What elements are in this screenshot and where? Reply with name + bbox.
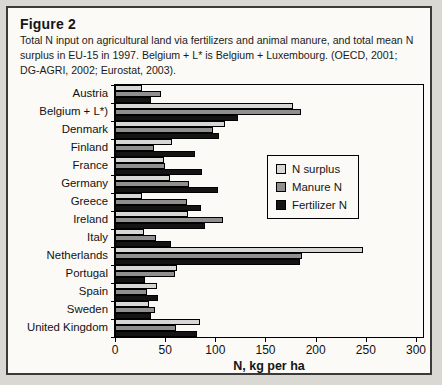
x-tick-mark (366, 338, 367, 342)
y-tick (111, 301, 115, 302)
y-axis-label: Finland (14, 138, 114, 156)
figure-title: Figure 2 (20, 16, 418, 32)
bar-group (115, 229, 423, 247)
y-tick (111, 193, 115, 194)
x-tick-label: 50 (158, 343, 171, 357)
x-tick-label: 100 (205, 343, 225, 357)
y-axis-label: France (14, 156, 114, 174)
y-axis-label: Belgium + L*) (14, 102, 114, 120)
x-tick-label: 200 (306, 343, 326, 357)
y-tick (111, 157, 115, 158)
x-tick-label: 250 (356, 343, 376, 357)
bar-group (115, 157, 423, 175)
x-tick-mark (215, 338, 216, 342)
y-axis-labels: AustriaBelgium + L*)DenmarkFinlandFrance… (14, 84, 114, 336)
bar-group (115, 265, 423, 283)
bar-group (115, 193, 423, 211)
plot-wrap: N surplusManure NFertilizer N 0501001502… (114, 84, 424, 373)
bar-group (115, 121, 423, 139)
y-axis-label: Netherlands (14, 246, 114, 264)
bar-chart: AustriaBelgium + L*)DenmarkFinlandFrance… (8, 84, 430, 373)
y-tick (111, 319, 115, 320)
y-axis-label: Italy (14, 228, 114, 246)
y-tick (111, 247, 115, 248)
x-axis-title: N, kg per ha (115, 359, 423, 373)
bar-group (115, 103, 423, 121)
y-tick (111, 175, 115, 176)
x-tick-mark (316, 338, 317, 342)
x-tick-mark (265, 338, 266, 342)
bar-group (115, 175, 423, 193)
y-axis-label: Austria (14, 84, 114, 102)
y-tick (111, 139, 115, 140)
y-axis-label: Ireland (14, 210, 114, 228)
y-axis-label: Spain (14, 282, 114, 300)
bar-group (115, 211, 423, 229)
figure-caption: Total N input on agricultural land via f… (20, 33, 416, 77)
y-axis-label: United Kingdom (14, 318, 114, 336)
plot-area: N surplusManure NFertilizer N (114, 84, 424, 338)
figure-panel: Figure 2 Total N input on agricultural l… (6, 6, 432, 375)
bar-group (115, 283, 423, 301)
y-axis-label: Denmark (14, 120, 114, 138)
y-axis-label: Greece (14, 192, 114, 210)
x-tick-mark (416, 338, 417, 342)
y-tick (111, 265, 115, 266)
x-tick-label: 0 (112, 343, 119, 357)
bar-group (115, 301, 423, 319)
y-tick (111, 121, 115, 122)
bar-group (115, 247, 423, 265)
y-axis-label: Sweden (14, 300, 114, 318)
x-tick-label: 150 (255, 343, 275, 357)
x-tick-mark (115, 338, 116, 342)
x-tick-mark (165, 338, 166, 342)
chart-grid: AustriaBelgium + L*)DenmarkFinlandFrance… (8, 84, 430, 373)
y-axis-label: Germany (14, 174, 114, 192)
bar-group (115, 319, 423, 337)
y-tick (111, 103, 115, 104)
y-tick (111, 85, 115, 86)
y-tick (111, 211, 115, 212)
x-axis-ticks: 050100150200250300 (115, 338, 423, 358)
y-axis-label: Portugal (14, 264, 114, 282)
bar-group (115, 139, 423, 157)
y-tick (111, 229, 115, 230)
bar-fertilizer-n (115, 331, 197, 337)
y-tick (111, 283, 115, 284)
bar-group (115, 85, 423, 103)
x-tick-label: 300 (406, 343, 426, 357)
